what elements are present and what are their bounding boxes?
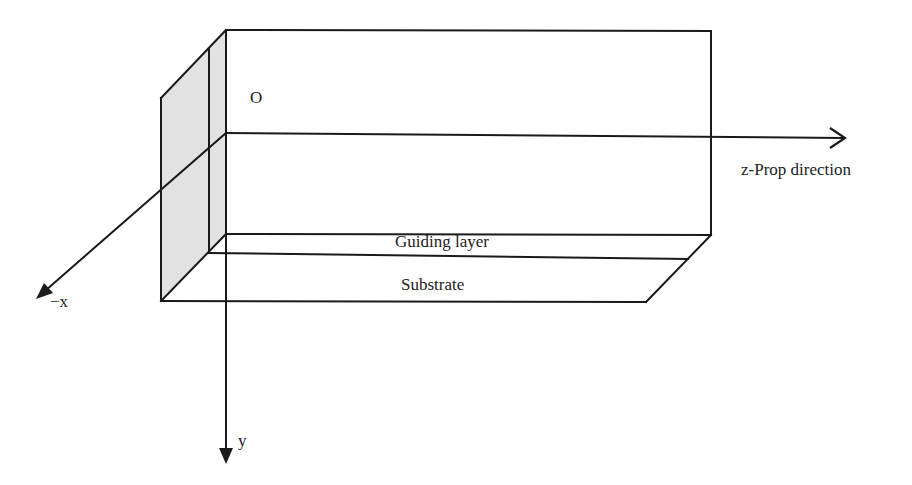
y-axis-arrow-icon — [219, 448, 233, 464]
right-bottom-diagonal — [646, 235, 711, 302]
x-axis-label: −x — [50, 292, 68, 312]
z-axis — [226, 133, 843, 138]
guiding-layer-label: Guiding layer — [395, 232, 489, 252]
guiding-layer-bottom — [209, 253, 688, 259]
box-top-edge — [226, 30, 711, 31]
y-axis-label: y — [238, 431, 247, 451]
input-facet-panel — [161, 30, 226, 301]
z-axis-label: z-Prop direction — [741, 160, 851, 180]
origin-label: O — [250, 88, 262, 108]
substrate-label: Substrate — [401, 275, 464, 295]
substrate-bottom — [161, 301, 646, 302]
